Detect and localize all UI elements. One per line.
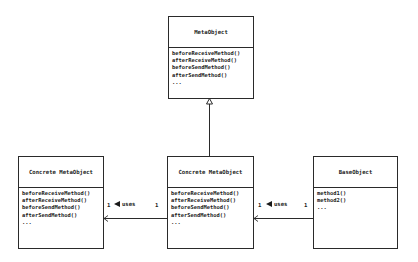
operation: beforeReceiveMethod() — [172, 50, 253, 57]
operations-list: beforeReceiveMethod() afterReceiveMethod… — [168, 188, 253, 226]
direction-triangle-icon — [266, 201, 272, 207]
operation: beforeReceiveMethod() — [171, 190, 253, 197]
operations-list: beforeReceiveMethod() afterReceiveMethod… — [19, 188, 103, 226]
multiplicity-left-target: 1 — [107, 202, 110, 208]
direction-triangle-icon — [114, 201, 120, 207]
class-meta-object[interactable]: MetaObject beforeReceiveMethod() afterRe… — [168, 16, 254, 99]
class-name: Concrete MetaObject — [19, 157, 103, 188]
operations-list: method1() method2() ... — [314, 188, 397, 212]
operation: afterSendMethod() — [172, 72, 253, 79]
association-label-left: uses — [114, 201, 135, 207]
class-name: BaseObject — [314, 157, 397, 188]
operations-list: beforeReceiveMethod() afterReceiveMethod… — [169, 48, 253, 86]
class-concrete-metaobject-center[interactable]: Concrete MetaObject beforeReceiveMethod(… — [167, 156, 254, 249]
operation: beforeSendMethod() — [171, 204, 253, 211]
multiplicity-right-target: 1 — [258, 202, 261, 208]
operation: ... — [172, 79, 253, 86]
class-concrete-metaobject-left[interactable]: Concrete MetaObject beforeReceiveMethod(… — [18, 156, 104, 249]
generalization-arrowhead-icon — [207, 99, 213, 105]
operation: afterReceiveMethod() — [171, 197, 253, 204]
multiplicity-left-source: 1 — [155, 202, 158, 208]
operation: ... — [22, 219, 103, 226]
class-name: MetaObject — [169, 17, 253, 48]
operation: ... — [171, 219, 253, 226]
class-name: Concrete MetaObject — [168, 157, 253, 188]
operation: afterSendMethod() — [22, 212, 103, 219]
class-base-object[interactable]: BaseObject method1() method2() ... — [313, 156, 398, 249]
operation: beforeReceiveMethod() — [22, 190, 103, 197]
operation: afterReceiveMethod() — [172, 57, 253, 64]
operation: method1() — [317, 190, 397, 197]
association-label-right: uses — [266, 201, 287, 207]
operation: ... — [317, 204, 397, 211]
operation: afterSendMethod() — [171, 212, 253, 219]
operation: beforeSendMethod() — [172, 64, 253, 71]
operation: beforeSendMethod() — [22, 204, 103, 211]
operation: method2() — [317, 197, 397, 204]
operation: afterReceiveMethod() — [22, 197, 103, 204]
multiplicity-right-source: 1 — [304, 202, 307, 208]
